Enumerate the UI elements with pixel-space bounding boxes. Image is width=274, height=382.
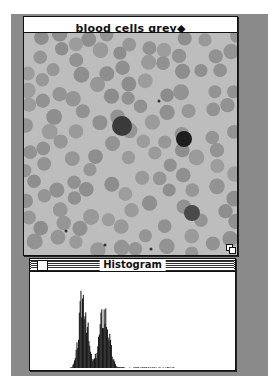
histogram-plot [30, 272, 235, 370]
image-window-title-bar[interactable]: blood cells grey◆ [24, 17, 237, 33]
image-window[interactable]: blood cells grey◆ [23, 16, 238, 256]
histogram-title: Histogram [99, 259, 166, 271]
histogram-bars [30, 272, 235, 370]
micrograph-canvas [24, 33, 237, 255]
close-box-icon[interactable] [37, 260, 48, 271]
blood-cells-image[interactable] [24, 33, 237, 255]
resize-grow-icon[interactable] [226, 244, 236, 254]
histogram-title-bar[interactable]: Histogram [30, 259, 235, 272]
histogram-window[interactable]: Histogram [29, 258, 236, 371]
